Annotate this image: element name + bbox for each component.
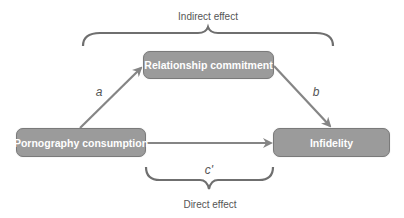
path-a-arrow [80, 68, 141, 128]
direct-effect-label: Direct effect [183, 199, 236, 210]
node-pornography-consumption: Pornography consumption [16, 128, 146, 157]
path-c-prime-label: c' [205, 163, 213, 177]
path-a-label: a [96, 85, 103, 99]
diagram-canvas [0, 0, 404, 218]
path-b-arrow [274, 66, 330, 126]
indirect-effect-label: Indirect effect [178, 11, 238, 22]
path-b-label: b [313, 85, 320, 99]
node-relationship-commitment: Relationship commitment [143, 51, 274, 79]
node-infidelity: Infidelity [273, 128, 390, 157]
indirect-effect-brace [83, 27, 333, 46]
